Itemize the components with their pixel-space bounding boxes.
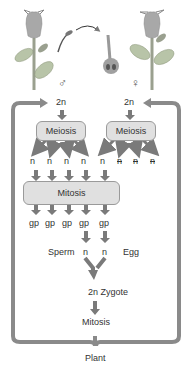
fertilization-arrow	[85, 258, 105, 280]
gametophyte-3: gp	[62, 218, 72, 228]
plant-label: Plant	[85, 353, 106, 363]
male-n-1: n	[30, 156, 35, 166]
loop-arrowhead-left	[40, 98, 48, 108]
female-symbol: ♀	[131, 76, 140, 90]
gamete-arrows	[81, 231, 110, 243]
gametophyte-mitosis-box: Mitosis	[23, 181, 120, 205]
gametophyte-5: gp	[99, 218, 109, 228]
female-ploidy-label: 2n	[124, 97, 134, 107]
male-symbol: ♂	[58, 76, 67, 90]
male-n-4: n	[81, 156, 86, 166]
female-n-degenerate-1: n	[117, 156, 122, 166]
egg-label: Egg	[123, 247, 139, 257]
gametophyte-4: gp	[79, 218, 89, 228]
sperm-n-label: n	[83, 247, 88, 257]
female-n-degenerate-3: n	[150, 156, 155, 166]
zygote-mitosis-arrow	[90, 301, 100, 315]
gametophyte-1: gp	[29, 218, 39, 228]
meiosis-output-arrows	[37, 140, 153, 150]
female-meiosis-box: Meiosis	[106, 121, 156, 141]
male-n-2: n	[47, 156, 52, 166]
mitosis-input-arrows	[31, 170, 110, 181]
pollination-arrow-icon	[58, 26, 98, 52]
meiosis-input-arrows	[57, 110, 135, 120]
loop-arrowhead-right	[143, 98, 151, 108]
zygote-label: 2n Zygote	[88, 287, 128, 297]
male-n-3: n	[64, 156, 69, 166]
mitosis-output-arrows	[31, 204, 110, 215]
female-n-functional: n	[100, 156, 105, 166]
pistil-icon	[103, 35, 119, 74]
zygote-mitosis-label: Mitosis	[82, 317, 110, 327]
male-ploidy-label: 2n	[56, 97, 66, 107]
gametophyte-2: gp	[45, 218, 55, 228]
male-plant-icon	[13, 10, 56, 90]
egg-n-label: n	[102, 247, 107, 257]
female-n-degenerate-2: n	[133, 156, 138, 166]
male-meiosis-box: Meiosis	[36, 121, 86, 141]
sperm-label: Sperm	[48, 247, 75, 257]
